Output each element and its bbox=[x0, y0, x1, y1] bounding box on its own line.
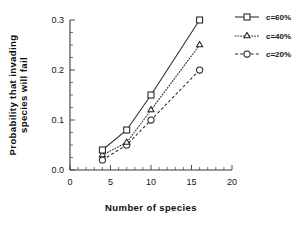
legend-label-c20: c=20% bbox=[266, 50, 291, 59]
series-c20-marker bbox=[197, 67, 203, 73]
legend-marker-circle-icon bbox=[244, 51, 250, 57]
x-tick-label-3: 15 bbox=[186, 177, 196, 187]
y-tick-label-1: 0.1 bbox=[51, 115, 64, 125]
y-axis-title-line2: species will fail bbox=[18, 57, 29, 133]
series-c60-marker bbox=[99, 147, 105, 153]
line-chart: 0.0 0.1 0.2 0.3 bbox=[0, 0, 298, 225]
y-axis-title-line1: Probability that invading bbox=[7, 35, 18, 156]
x-tick-label-1: 5 bbox=[108, 177, 113, 187]
series-c60-marker bbox=[148, 92, 154, 98]
legend-marker-square-icon bbox=[244, 14, 250, 20]
x-axis-title: Number of species bbox=[105, 202, 197, 213]
x-tick-label-2: 10 bbox=[146, 177, 156, 187]
series-c60-marker bbox=[197, 17, 203, 23]
x-tick-label-0: 0 bbox=[67, 177, 72, 187]
chart-screenshot: 0.0 0.1 0.2 0.3 bbox=[0, 0, 298, 225]
legend-label-c60: c=60% bbox=[266, 13, 291, 22]
y-tick-label-2: 0.2 bbox=[51, 65, 64, 75]
legend-label-c40: c=40% bbox=[266, 32, 291, 41]
y-tick-label-3: 0.3 bbox=[51, 15, 64, 25]
y-tick-label-0: 0.0 bbox=[51, 165, 64, 175]
series-c20-marker bbox=[148, 117, 154, 123]
series-c60-marker bbox=[124, 127, 130, 133]
series-c20-marker bbox=[99, 157, 105, 163]
x-tick-label-4: 20 bbox=[227, 177, 237, 187]
